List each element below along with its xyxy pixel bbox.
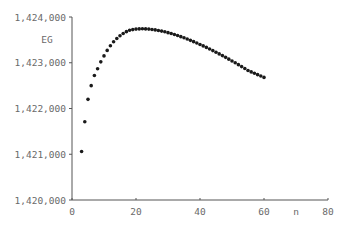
data-point: [89, 84, 93, 88]
data-point: [249, 70, 253, 74]
data-point: [96, 67, 100, 71]
data-point: [144, 27, 148, 31]
y-tick-label: 1,423,000: [15, 57, 67, 68]
data-point: [115, 37, 119, 41]
data-point: [262, 76, 266, 80]
data-point: [147, 27, 151, 31]
data-point: [256, 73, 260, 77]
data-point: [237, 63, 241, 67]
data-points: [80, 27, 266, 153]
data-point: [243, 67, 247, 71]
data-point: [214, 50, 218, 54]
data-point: [176, 34, 180, 38]
data-point: [205, 46, 209, 50]
data-point: [93, 74, 97, 78]
x-tick-label: 80: [322, 206, 334, 217]
data-point: [185, 37, 189, 41]
data-point: [157, 29, 161, 33]
data-point: [105, 49, 109, 53]
y-tick-label: 1,421,000: [15, 149, 67, 160]
data-point: [153, 28, 157, 32]
data-point: [109, 44, 113, 48]
data-point: [259, 74, 263, 78]
x-tick-label: 60: [258, 206, 270, 217]
data-point: [182, 36, 186, 40]
data-point: [163, 30, 167, 34]
data-point: [86, 98, 90, 102]
data-point: [160, 29, 164, 33]
data-point: [233, 61, 237, 65]
y-tick-label: 1,424,000: [15, 12, 67, 23]
x-tick-label: 20: [130, 206, 142, 217]
data-point: [192, 40, 196, 44]
data-point: [198, 43, 202, 47]
y-tick-label: 1,422,000: [15, 103, 67, 114]
data-point: [195, 41, 199, 45]
data-point: [80, 150, 84, 154]
y-axis: 1,420,0001,421,0001,422,0001,423,0001,42…: [15, 12, 72, 206]
data-point: [83, 120, 87, 124]
data-point: [166, 31, 170, 35]
data-point: [128, 28, 132, 32]
data-point: [150, 28, 154, 32]
data-point: [217, 52, 221, 56]
data-point: [112, 40, 116, 44]
data-point: [208, 47, 212, 51]
data-point: [121, 32, 125, 36]
data-point: [125, 30, 129, 34]
data-point: [221, 54, 225, 58]
scatter-chart: 1,420,0001,421,0001,422,0001,423,0001,42…: [0, 0, 346, 226]
data-point: [211, 49, 215, 53]
data-point: [246, 69, 250, 73]
y-tick-label: 1,420,000: [15, 195, 67, 206]
x-axis: 020406080 n: [69, 198, 334, 217]
data-point: [173, 33, 177, 37]
data-point: [118, 34, 122, 38]
data-point: [227, 57, 231, 61]
data-point: [102, 54, 106, 58]
x-tick-label: 40: [194, 206, 206, 217]
data-point: [230, 59, 234, 63]
data-point: [179, 35, 183, 39]
data-point: [189, 39, 193, 43]
data-point: [240, 65, 244, 69]
data-point: [141, 27, 145, 31]
data-point: [201, 44, 205, 48]
x-axis-title: n: [293, 206, 299, 217]
data-point: [169, 32, 173, 36]
data-point: [224, 56, 228, 60]
y-axis-title: EG: [41, 34, 53, 45]
data-point: [131, 28, 135, 32]
data-point: [99, 60, 103, 64]
data-point: [134, 27, 138, 31]
data-point: [253, 71, 257, 75]
x-tick-label: 0: [69, 206, 75, 217]
data-point: [137, 27, 141, 31]
